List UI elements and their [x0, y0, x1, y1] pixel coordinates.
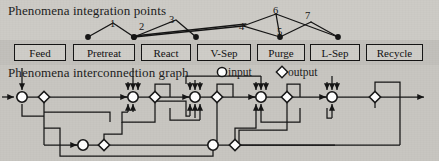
integration-point-label-1: 1: [110, 19, 115, 30]
legend-input-label: input: [228, 67, 252, 79]
legend-output-diamond-icon: [276, 66, 287, 77]
unit-box-feed[interactable]: Feed: [14, 44, 66, 61]
integration-point-label-4: 4: [239, 22, 244, 33]
legend-output-label: output: [288, 67, 317, 79]
integration-point-label-7: 7: [305, 11, 310, 22]
legend-glyphs: [0, 0, 439, 161]
legend-input-circle-icon: [217, 67, 226, 76]
unit-box-react[interactable]: React: [141, 44, 191, 61]
integration-point-label-3: 3: [169, 15, 174, 26]
unit-box-purge[interactable]: Purge: [257, 44, 305, 61]
integration-point-label-5: 5: [277, 27, 282, 38]
page-title-interconnection-graph: Phenomena interconnection graph: [8, 66, 189, 79]
page-title-integration-points: Phenomena integration points: [8, 4, 166, 17]
integration-point-label-6: 6: [273, 6, 278, 17]
diagram-canvas: Phenomena integration points Phenomena i…: [0, 0, 439, 161]
unit-box-pretreat[interactable]: Pretreat: [73, 44, 135, 61]
integration-point-label-2: 2: [139, 22, 144, 33]
unit-box-l-sep[interactable]: L-Sep: [310, 44, 360, 61]
unit-box-recycle[interactable]: Recycle: [366, 44, 423, 61]
unit-box-v-sep[interactable]: V-Sep: [197, 44, 251, 61]
